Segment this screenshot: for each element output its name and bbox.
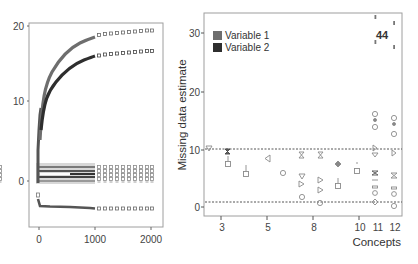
right-y-axis: 30 20 10 0 xyxy=(189,28,204,213)
left-y-axis: 20 10 0 xyxy=(13,21,29,187)
right-x-tick-8: 8 xyxy=(311,222,317,233)
marker-square xyxy=(392,187,397,189)
marker-circle xyxy=(391,131,396,136)
left-chart-frame xyxy=(29,23,163,227)
marker-circle xyxy=(391,203,396,208)
marker-hourglass xyxy=(372,171,378,175)
marker-triangle-right xyxy=(392,150,396,156)
right-x-tick-3: 3 xyxy=(219,222,225,233)
right-y-tick-0: 0 xyxy=(194,202,200,213)
marker-circle xyxy=(317,200,322,205)
marker-square xyxy=(336,184,341,189)
variable1-trace xyxy=(40,37,95,140)
marker-circle xyxy=(373,191,378,196)
marker-triangle-down xyxy=(299,174,305,179)
marker-circle xyxy=(280,170,285,175)
marker-triangle-right xyxy=(299,181,304,187)
right-y-tick-30: 30 xyxy=(189,28,201,39)
variable2-sparse-markers xyxy=(98,50,154,58)
marker-triangle-down xyxy=(372,153,378,157)
marker-circle xyxy=(372,124,377,129)
marker-triangle-right xyxy=(373,145,377,151)
marker-diamond xyxy=(335,161,341,167)
left-x-tick-1000: 1000 xyxy=(84,234,107,245)
left-chart: 20 10 0 0 1000 2000 xyxy=(0,21,163,245)
marker-bar xyxy=(393,21,395,25)
marker-bar xyxy=(375,15,377,19)
left-x-tick-0: 0 xyxy=(36,234,42,245)
marker-circle xyxy=(391,115,396,120)
right-x-axis: 3 5 8 10 11 12 Concepts xyxy=(219,216,401,248)
outlier-annotation: 44 xyxy=(376,29,389,41)
right-y-tick-10: 10 xyxy=(189,145,201,156)
legend-label-variable1: Variable 1 xyxy=(225,30,270,41)
left-y-tick-0: 0 xyxy=(18,176,24,187)
variable1-sparse-markers xyxy=(98,29,154,37)
left-y-tick-20: 20 xyxy=(13,21,25,32)
variable2-trace xyxy=(41,56,95,130)
legend: Variable 1 Variable 2 xyxy=(213,30,270,53)
left-y-tick-10: 10 xyxy=(13,96,25,107)
negative-trace xyxy=(37,193,154,210)
figure: 20 10 0 0 1000 2000 xyxy=(0,0,418,264)
marker-circle xyxy=(392,192,397,197)
right-x-tick-11: 11 xyxy=(373,222,384,233)
right-x-tick-5: 5 xyxy=(265,222,271,233)
right-y-axis-title: Missing data estimate xyxy=(176,59,188,170)
marker-bar xyxy=(393,45,395,49)
marker-square xyxy=(373,186,378,188)
legend-swatch-variable1 xyxy=(213,31,222,40)
right-chart: Missing data estimate 30 20 10 0 3 5 8 1… xyxy=(176,13,402,248)
right-x-axis-title: Concepts xyxy=(352,236,401,248)
marker-square xyxy=(226,162,231,167)
right-x-tick-10: 10 xyxy=(354,222,366,233)
left-x-axis: 0 1000 2000 xyxy=(36,227,162,245)
right-x-tick-12: 12 xyxy=(389,222,401,233)
right-y-tick-20: 20 xyxy=(189,87,201,98)
marker-triangle-left xyxy=(265,155,270,162)
marker-square xyxy=(244,172,249,177)
marker-bar xyxy=(375,40,377,44)
marker-hourglass xyxy=(299,152,304,158)
legend-label-variable2: Variable 2 xyxy=(225,42,270,53)
marker-circle xyxy=(299,194,304,199)
marker-dot xyxy=(374,119,377,122)
marker-dot xyxy=(393,123,396,126)
left-x-tick-2000: 2000 xyxy=(140,234,163,245)
marker-circle xyxy=(372,111,377,116)
marker-hourglass xyxy=(318,152,323,158)
marker-hourglass xyxy=(225,149,230,154)
marker-triangle-right xyxy=(318,187,323,193)
marker-triangle-right xyxy=(318,177,323,183)
legend-swatch-variable2 xyxy=(213,43,222,52)
marker-square xyxy=(355,169,360,174)
marker-hourglass xyxy=(391,173,397,178)
